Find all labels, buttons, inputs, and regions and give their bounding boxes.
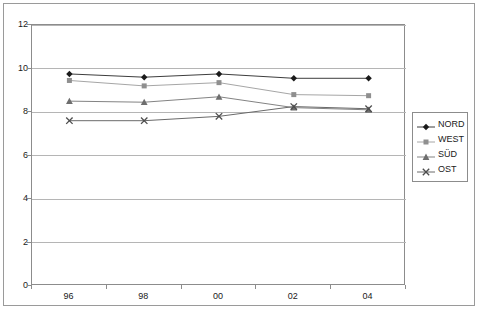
data-point-marker (216, 71, 222, 77)
legend-marker-icon (416, 164, 436, 176)
y-axis-tick-label: 10 (0, 63, 28, 73)
data-point-marker (424, 139, 429, 144)
data-point-marker (141, 74, 147, 80)
y-axis-tick-label: 6 (0, 150, 28, 160)
data-point-marker (366, 93, 371, 98)
y-axis-tick-label: 2 (0, 237, 28, 247)
x-axis-tick-label: 96 (63, 291, 73, 301)
series-süd (66, 93, 372, 112)
legend-item-ost[interactable]: OST (416, 162, 464, 177)
x-axis-tick-label: 00 (213, 291, 223, 301)
data-point-marker (365, 75, 371, 81)
x-axis-tick-label: 04 (363, 291, 373, 301)
plot-canvas (32, 25, 406, 286)
series-ost (66, 103, 372, 124)
legend-item-label: SÜD (436, 150, 457, 159)
legend-marker-icon (416, 149, 436, 161)
data-point-marker (66, 71, 72, 77)
plot-area (31, 24, 405, 285)
legend-marker-icon (416, 134, 436, 146)
data-point-marker (291, 92, 296, 97)
legend-marker-icon (416, 119, 436, 131)
series-nord (66, 71, 372, 82)
legend-item-label: NORD (436, 120, 465, 129)
data-point-marker (423, 123, 429, 129)
y-axis-tick-label: 8 (0, 106, 28, 116)
y-axis-tick-label: 4 (0, 193, 28, 203)
legend-item-label: WEST (436, 135, 464, 144)
legend-item-nord[interactable]: NORD (416, 117, 464, 132)
y-axis-tick-label: 12 (0, 19, 28, 29)
x-axis-tick-label: 98 (138, 291, 148, 301)
y-axis-tick-label: 0 (0, 280, 28, 290)
legend: NORDWESTSÜDOST (412, 112, 468, 182)
legend-item-süd[interactable]: SÜD (416, 147, 464, 162)
legend-item-west[interactable]: WEST (416, 132, 464, 147)
data-point-marker (67, 78, 72, 83)
line-chart: 121086420 9698000204 NORDWESTSÜDOST (0, 0, 479, 310)
x-axis-tick-label: 02 (288, 291, 298, 301)
data-point-marker (291, 75, 297, 81)
data-point-marker (142, 83, 147, 88)
data-point-marker (217, 80, 222, 85)
legend-item-label: OST (436, 165, 457, 174)
